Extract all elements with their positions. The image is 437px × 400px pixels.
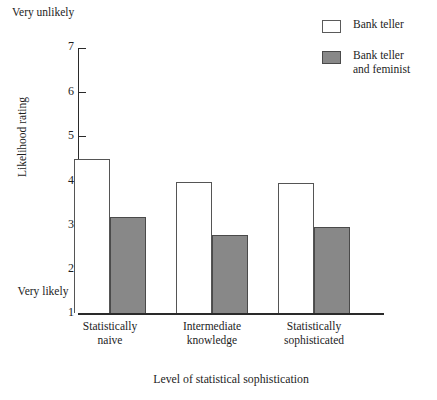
y-axis-title: Likelihood rating bbox=[16, 72, 28, 202]
chart-figure: Very unlikely Very likely Likelihood rat… bbox=[0, 0, 437, 400]
legend: Bank tellerBank teller and feminist bbox=[322, 18, 437, 92]
y-axis-tick-label: 1 bbox=[56, 306, 74, 319]
legend-entry[interactable]: Bank teller and feminist bbox=[322, 49, 437, 76]
bar-bank-teller bbox=[176, 182, 212, 313]
legend-label: Bank teller and feminist bbox=[353, 49, 410, 76]
y-axis-low-annotation: Very likely bbox=[12, 285, 74, 298]
legend-label: Bank teller bbox=[353, 18, 404, 32]
y-axis-tick: 7 bbox=[79, 48, 86, 49]
y-axis-tick: 6 bbox=[79, 92, 86, 93]
x-axis-line bbox=[78, 313, 384, 315]
filled-square-icon bbox=[322, 51, 341, 64]
y-axis-tick: 5 bbox=[79, 136, 86, 137]
y-axis-tick-label: 3 bbox=[56, 218, 74, 231]
bar-bank-teller bbox=[74, 159, 110, 313]
x-axis-category-label: Statistically sophisticated bbox=[254, 319, 374, 347]
bar-bank-teller-and-feminist bbox=[212, 235, 248, 313]
y-axis-tick: 1 bbox=[79, 313, 86, 314]
bar-bank-teller-and-feminist bbox=[110, 217, 146, 313]
y-axis-tick-label: 6 bbox=[56, 85, 74, 98]
y-axis-tick-label: 7 bbox=[56, 40, 74, 53]
bar-bank-teller bbox=[278, 183, 314, 313]
y-axis-tick-label: 4 bbox=[56, 174, 74, 187]
legend-entry[interactable]: Bank teller bbox=[322, 18, 437, 33]
y-axis-tick-label: 2 bbox=[56, 262, 74, 275]
y-axis-high-annotation: Very unlikely bbox=[12, 6, 74, 19]
y-axis-tick-label: 5 bbox=[56, 129, 74, 142]
open-square-icon bbox=[322, 20, 341, 33]
bar-bank-teller-and-feminist bbox=[314, 227, 350, 313]
x-axis-title: Level of statistical sophistication bbox=[78, 372, 384, 387]
